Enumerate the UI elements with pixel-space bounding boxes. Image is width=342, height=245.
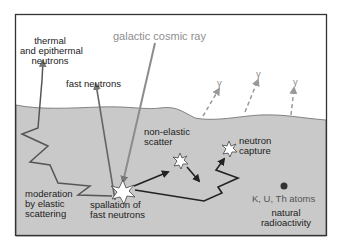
gamma-symbol-1: γ	[217, 78, 222, 88]
nonelastic-label: non-elastic scatter	[144, 127, 190, 147]
gamma-arrow-3	[291, 88, 294, 115]
gamma-arrow-2	[245, 80, 258, 112]
fast-neutrons-label: fast neutrons	[66, 79, 121, 89]
capture-label-line2: capture	[239, 146, 271, 156]
atoms-label: K, U, Th atoms	[252, 194, 315, 204]
natural-radioactivity-label: natural radioactivity	[251, 208, 321, 228]
atom-dot	[281, 183, 288, 190]
moderation-label-line3: scattering	[25, 209, 73, 219]
spallation-label: spallation of fast neutrons	[90, 200, 145, 220]
thermal-label-line3: neutrons	[20, 56, 80, 66]
spallation-label-line2: fast neutrons	[90, 210, 145, 220]
thermal-neutrons-label: thermal and epithermal neutrons	[20, 36, 80, 66]
gamma-symbol-3: γ	[293, 77, 298, 87]
capture-label: neutron capture	[239, 136, 271, 156]
gamma-arrow-1	[203, 89, 219, 116]
nonelastic-label-line2: scatter	[144, 137, 190, 147]
moderation-label: moderation by elastic scattering	[25, 189, 73, 219]
cosmic-ray-label: galactic cosmic ray	[113, 31, 206, 41]
natural-label-line2: radioactivity	[251, 218, 321, 228]
gamma-symbol-2: γ	[256, 69, 261, 79]
